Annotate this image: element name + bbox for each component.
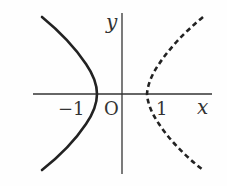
hyperbola-diagram: y x O −1 1 — [0, 0, 227, 186]
tick-label-1: 1 — [156, 98, 167, 119]
y-axis-label: y — [105, 10, 118, 34]
x-axis-label: x — [197, 95, 208, 119]
tick-label-neg1: −1 — [58, 98, 85, 119]
origin-label: O — [104, 98, 119, 119]
graph-svg: y x O −1 1 — [0, 0, 227, 186]
